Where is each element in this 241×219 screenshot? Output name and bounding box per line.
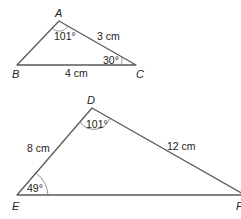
vertex-a-label: A (54, 7, 62, 19)
side-de-label: 8 cm (27, 142, 50, 154)
triangle-def: D E F 101° 49° 8 cm 12 cm (12, 94, 241, 212)
side-bc-label: 4 cm (65, 67, 88, 79)
angle-c-arc (121, 57, 122, 65)
similar-triangles-diagram: A B C 101° 30° 3 cm 4 cm D E F 101° 49° … (0, 0, 241, 219)
vertex-e-label: E (12, 200, 20, 212)
vertex-c-label: C (136, 68, 144, 80)
triangle-abc: A B C 101° 30° 3 cm 4 cm (12, 7, 144, 80)
angle-a-label: 101° (54, 30, 76, 42)
vertex-b-label: B (12, 68, 19, 80)
side-df-label: 12 cm (167, 140, 196, 152)
triangle-def-outline (17, 108, 241, 195)
vertex-f-label: F (236, 200, 241, 212)
angle-c-label: 30° (103, 54, 119, 66)
vertex-d-label: D (87, 94, 95, 106)
side-ac-label: 3 cm (97, 30, 120, 42)
angle-d-label: 101° (86, 118, 108, 130)
angle-e-label: 49° (27, 182, 43, 194)
